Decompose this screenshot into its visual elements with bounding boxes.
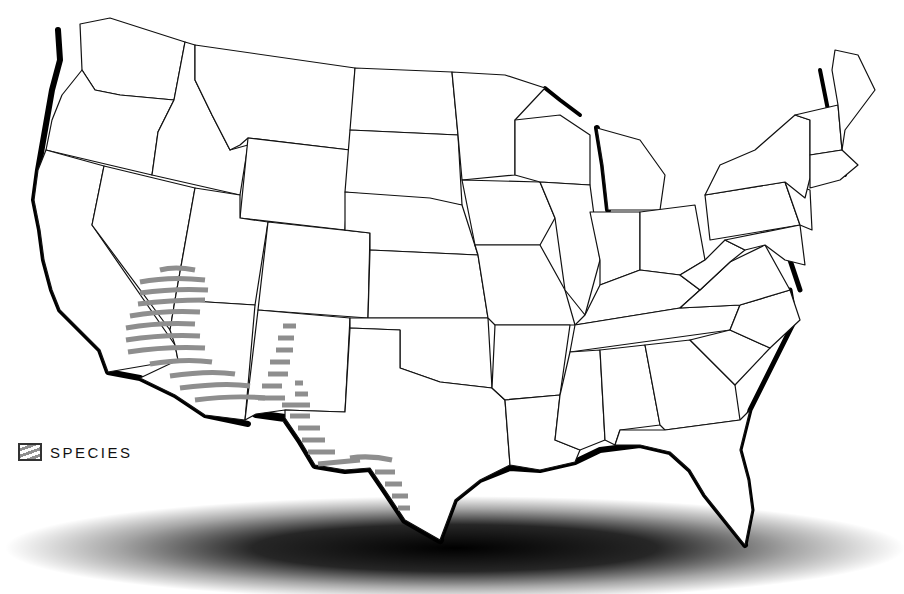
state-michigan xyxy=(597,128,665,210)
state-colorado xyxy=(258,222,370,318)
state-washington xyxy=(80,18,185,100)
ground-shadow xyxy=(5,496,904,594)
state-wisconsin xyxy=(515,115,590,185)
species-swatch-icon xyxy=(18,443,42,461)
state-arkansas xyxy=(492,325,570,400)
legend-label-species: SPECIES xyxy=(50,444,133,461)
us-map xyxy=(0,0,904,594)
state-massachusetts-ct-ri xyxy=(810,150,858,188)
state-north-dakota xyxy=(350,68,458,135)
state-wyoming xyxy=(240,138,350,230)
legend: SPECIES xyxy=(18,443,133,461)
state-iowa xyxy=(462,180,555,245)
state-ohio xyxy=(640,205,705,275)
state-kansas xyxy=(368,250,488,318)
state-new-york xyxy=(705,115,810,198)
